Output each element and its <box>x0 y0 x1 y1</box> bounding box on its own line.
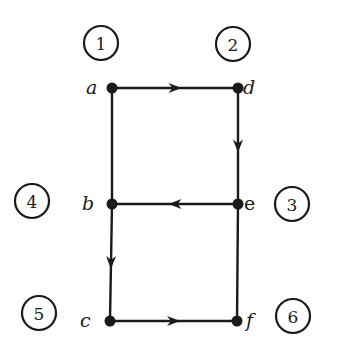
node-label: b <box>82 192 94 214</box>
vertex-dot-icon <box>233 199 244 210</box>
region-marker-6: 6 <box>276 299 310 333</box>
node-label: d <box>243 76 255 98</box>
node-label: e <box>244 192 255 214</box>
region-number: 1 <box>96 34 107 54</box>
region-number: 5 <box>34 304 45 324</box>
region-marker-2: 2 <box>216 27 250 61</box>
region-number: 2 <box>228 35 239 55</box>
node-label: f <box>244 309 256 331</box>
edges <box>106 83 243 326</box>
region-number: 3 <box>287 195 298 215</box>
vertex-dot-icon <box>233 83 244 94</box>
edge-e-f <box>237 204 238 321</box>
region-number: 4 <box>27 192 38 212</box>
region-marker-1: 1 <box>84 26 118 60</box>
region-marker-5: 5 <box>22 296 56 330</box>
region-number: 6 <box>288 307 299 327</box>
region-markers: 123456 <box>15 26 310 333</box>
node-label: a <box>86 76 97 98</box>
node-f: f <box>232 309 257 331</box>
vertex-dot-icon <box>105 316 116 327</box>
node-label: c <box>80 309 91 331</box>
vertex-dot-icon <box>232 316 243 327</box>
node-d: d <box>233 76 256 98</box>
directed-graph-diagram: 123456 adbecf <box>0 0 341 353</box>
vertex-dot-icon <box>107 83 118 94</box>
region-marker-3: 3 <box>275 187 309 221</box>
vertex-dot-icon <box>107 199 118 210</box>
region-marker-4: 4 <box>15 184 49 218</box>
node-e: e <box>233 192 256 214</box>
